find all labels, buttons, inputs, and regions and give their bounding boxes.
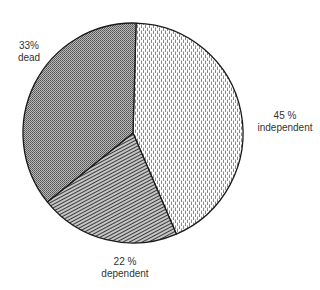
label-dead-percent: 33% (8, 40, 50, 52)
label-dead: 33% dead (8, 40, 50, 64)
label-dependent-percent: 22 % (95, 256, 155, 268)
label-independent-name: independent (255, 122, 315, 134)
label-independent-percent: 45 % (255, 110, 315, 122)
label-dead-name: dead (8, 52, 50, 64)
label-dependent: 22 % dependent (95, 256, 155, 280)
label-dependent-name: dependent (95, 268, 155, 280)
label-independent: 45 % independent (255, 110, 315, 134)
